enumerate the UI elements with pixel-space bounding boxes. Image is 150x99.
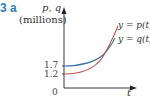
curve-q (64, 38, 115, 66)
chart-plot (0, 0, 150, 99)
curve-p (64, 26, 118, 74)
y-axis-arrow-icon (62, 7, 67, 14)
x-axis-arrow-icon (130, 86, 137, 91)
